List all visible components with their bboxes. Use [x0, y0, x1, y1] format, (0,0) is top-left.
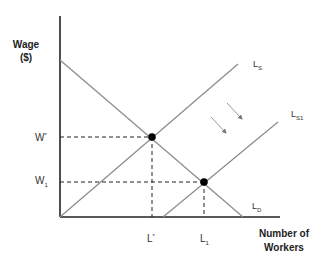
x-axis-title-line1: Number of	[253, 227, 314, 241]
ls1-curve-label: LS1	[291, 110, 303, 121]
w1-sub: 1	[44, 182, 47, 188]
ls-sub: S	[258, 65, 262, 71]
w-star-label: W*	[35, 132, 47, 143]
l-star-label: L*	[147, 233, 155, 244]
equilibrium-point-original	[148, 133, 156, 141]
shift-arrow-icon	[211, 117, 226, 133]
x-axis-title: Number of Workers	[253, 227, 314, 255]
w1-label: W1	[35, 176, 48, 188]
supply-curve-ls	[60, 64, 238, 217]
ld-sub: D	[257, 207, 261, 213]
ls1-sub: S1	[296, 115, 303, 121]
l1-sub: 1	[206, 240, 209, 246]
ls-curve-label: LS	[253, 60, 262, 71]
equilibrium-point-new	[200, 178, 208, 186]
ld-curve-label: LD	[252, 202, 261, 213]
labor-market-diagram	[0, 0, 314, 263]
x-axis-title-line2: Workers	[253, 241, 314, 255]
w-star-sup: *	[44, 132, 46, 138]
shift-arrow-icon	[227, 103, 242, 119]
l1-label: L1	[200, 234, 209, 246]
y-axis-title-line1: Wage	[8, 38, 44, 51]
y-axis-title: Wage ($)	[8, 38, 44, 64]
y-axis-title-line2: ($)	[8, 51, 44, 64]
l-star-sup: *	[153, 233, 155, 239]
